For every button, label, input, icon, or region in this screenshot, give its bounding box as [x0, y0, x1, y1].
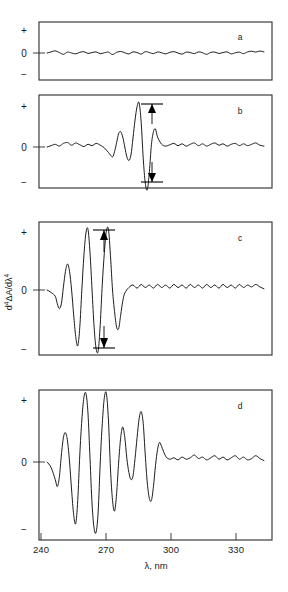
panel-c-minus-label: − [21, 344, 27, 355]
panel-b-zero-label: 0 [21, 142, 27, 153]
panel-b-letter: b [238, 106, 243, 116]
panel-c-amplitude-arrows [93, 230, 115, 348]
panel-c-zero-label: 0 [21, 285, 27, 296]
derivative-spectra-figure: + 0 − a + 0 − b [0, 0, 288, 592]
x-tick-330: 330 [228, 544, 244, 555]
panel-b: + 0 − b [21, 95, 272, 190]
x-tick-240: 240 [33, 544, 49, 555]
panel-d-trace [47, 392, 264, 534]
panel-b-trace [47, 102, 264, 190]
panel-c-down-arrow-head [100, 338, 108, 348]
panel-a: + 0 − a [21, 22, 272, 80]
panel-a-trace [47, 51, 264, 55]
x-axis-ticks [41, 533, 236, 540]
panel-a-letter: a [238, 32, 243, 42]
panel-d-minus-label: − [21, 524, 27, 535]
panel-d-zero-label: 0 [21, 457, 27, 468]
panel-a-zero-label: 0 [21, 48, 27, 59]
panel-d-letter: d [238, 401, 243, 411]
panel-b-plus-label: + [21, 101, 27, 112]
panel-a-minus-label: − [21, 69, 27, 80]
panel-b-minus-label: − [21, 177, 27, 188]
panel-c-plus-label: + [21, 227, 27, 238]
x-tick-270: 270 [98, 544, 114, 555]
panel-c-trace [47, 227, 264, 353]
figure-root: + 0 − a + 0 − b [0, 0, 288, 592]
y-axis-label: d4ΔA/dλ4 [3, 273, 14, 310]
x-axis-label: λ, nm [144, 560, 167, 571]
panel-d: + 0 − d [21, 390, 272, 540]
panel-a-plus-label: + [21, 25, 27, 36]
panel-c: + 0 − c d4ΔA/dλ4 [3, 222, 272, 355]
panel-a-frame [39, 22, 272, 80]
x-axis: 240 270 300 330 λ, nm [33, 544, 244, 571]
x-tick-300: 300 [163, 544, 179, 555]
panel-d-plus-label: + [21, 395, 27, 406]
panel-b-up-arrow-head [148, 104, 156, 113]
panel-c-letter: c [238, 233, 243, 243]
